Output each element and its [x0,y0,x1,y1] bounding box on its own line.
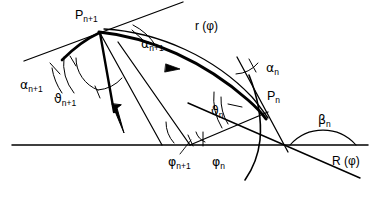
label-alpha-n: αn [266,62,279,75]
tick-alpha-next-left [50,63,60,74]
angle-arc-alpha-n [236,63,258,74]
label-beta-n: βn [318,114,331,127]
normal-curve-p-n [245,75,260,180]
tick-theta-next-b [95,86,100,98]
label-r-phi: r (φ) [195,20,218,32]
angle-arc-beta-n [290,130,356,145]
force-arrow-head [112,104,124,133]
label-p-next: Pn+1 [75,9,98,22]
orbit-direction-arrowhead [165,64,180,72]
outer-arc-curve [104,29,268,118]
tick-theta-next [70,56,76,66]
tick-theta-n [228,104,242,107]
label-theta-next: ϑn+1 [54,93,76,106]
label-alpha-next-top: αn+1 [141,38,164,51]
label-phi-n: φn [212,156,225,169]
tangent-line-p-n [237,57,288,152]
angle-arc-theta-next-outer [64,57,74,93]
angle-arc-alpha-next-left [52,68,62,93]
angle-arc-phi-next [166,122,174,143]
leader-phi-next [180,140,191,154]
label-p-n: Pn [267,90,280,103]
label-R-phi: R (φ) [332,155,360,167]
label-theta-n: ϑn [211,105,223,118]
geometry-figure: Pn+1 Pn r (φ) R (φ) αn+1 αn+1 αn ϑn+1 ϑn… [0,0,384,200]
angle-arc-theta-next-inner [76,58,98,90]
label-phi-next: φn+1 [168,156,191,169]
label-alpha-next-left: αn+1 [20,79,43,92]
incoming-segment-p-next [62,33,99,60]
